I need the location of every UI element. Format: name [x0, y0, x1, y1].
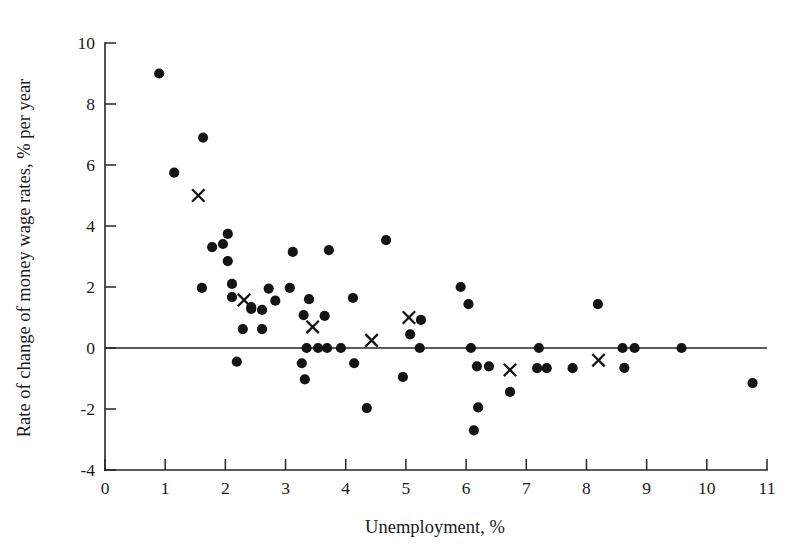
data-point-dot	[532, 363, 542, 373]
data-point-dot	[473, 402, 483, 412]
data-point-dot	[300, 374, 310, 384]
data-point-cross	[365, 334, 377, 346]
data-point-dot	[297, 358, 307, 368]
y-tick-label: -4	[80, 460, 95, 480]
tick-marks-group	[105, 43, 767, 470]
data-point-dot	[257, 305, 267, 315]
data-point-dot	[223, 256, 233, 266]
data-point-dot	[197, 283, 207, 293]
data-point-dot	[747, 378, 757, 388]
data-point-cross	[403, 311, 415, 323]
data-point-dot	[349, 358, 359, 368]
data-point-dot	[324, 245, 334, 255]
data-point-cross	[504, 364, 516, 376]
data-point-dot	[336, 343, 346, 353]
x-tick-label: 6	[462, 478, 471, 498]
data-point-dot	[313, 343, 323, 353]
tick-labels-group: -4-2024681001234567891011	[78, 33, 776, 498]
data-point-dot	[469, 425, 479, 435]
data-point-dot	[218, 239, 228, 249]
data-point-dot	[466, 343, 476, 353]
y-tick-label: 10	[78, 33, 96, 53]
data-point-dot	[415, 343, 425, 353]
data-point-dot	[227, 279, 237, 289]
data-point-dot	[534, 343, 544, 353]
data-point-dot	[257, 324, 267, 334]
x-tick-label: 4	[341, 478, 350, 498]
data-point-dot	[302, 343, 312, 353]
data-point-dot	[227, 292, 237, 302]
data-point-dot	[288, 247, 298, 257]
data-point-dot	[285, 283, 295, 293]
y-tick-label: 0	[86, 338, 95, 358]
x-tick-label: 10	[698, 478, 716, 498]
data-point-dot	[207, 242, 217, 252]
data-points-group	[154, 68, 758, 435]
data-point-dot	[542, 363, 552, 373]
x-tick-label: 11	[759, 478, 776, 498]
x-tick-label: 9	[642, 478, 651, 498]
data-point-dot	[593, 299, 603, 309]
data-point-dot	[169, 168, 179, 178]
y-tick-label: 2	[86, 277, 95, 297]
data-point-dot	[362, 403, 372, 413]
data-point-cross	[192, 189, 204, 201]
scatter-plot-figure: -4-2024681001234567891011 Unemployment, …	[0, 0, 804, 560]
data-point-dot	[676, 343, 686, 353]
data-point-dot	[484, 361, 494, 371]
x-tick-label: 2	[221, 478, 230, 498]
data-point-dot	[472, 361, 482, 371]
data-point-dot	[619, 363, 629, 373]
data-point-dot	[232, 357, 242, 367]
data-point-dot	[630, 343, 640, 353]
data-point-cross	[592, 354, 604, 366]
data-point-dot	[198, 132, 208, 142]
y-tick-label: 6	[86, 155, 95, 175]
x-tick-label: 5	[402, 478, 411, 498]
data-point-cross	[306, 321, 318, 333]
data-point-dot	[405, 329, 415, 339]
data-point-cross	[238, 294, 250, 306]
data-point-dot	[270, 296, 280, 306]
data-point-dot	[456, 282, 466, 292]
data-point-dot	[299, 310, 309, 320]
data-point-dot	[505, 387, 515, 397]
data-point-dot	[320, 311, 330, 321]
y-tick-label: 8	[86, 94, 95, 114]
data-point-dot	[348, 293, 358, 303]
data-point-dot	[416, 315, 426, 325]
x-tick-label: 3	[281, 478, 290, 498]
plot-canvas: -4-2024681001234567891011 Unemployment, …	[0, 0, 804, 560]
x-tick-label: 1	[161, 478, 170, 498]
data-point-dot	[238, 324, 248, 334]
data-point-dot	[264, 283, 274, 293]
x-tick-label: 8	[582, 478, 591, 498]
x-tick-label: 0	[101, 478, 110, 498]
data-point-dot	[223, 229, 233, 239]
data-point-dot	[154, 68, 164, 78]
data-point-dot	[304, 294, 314, 304]
x-tick-label: 7	[522, 478, 531, 498]
data-point-dot	[617, 343, 627, 353]
x-axis-title: Unemployment, %	[365, 517, 505, 537]
data-point-dot	[398, 372, 408, 382]
data-point-dot	[568, 363, 578, 373]
axis-group	[105, 43, 767, 470]
y-tick-label: -2	[80, 399, 95, 419]
y-tick-label: 4	[86, 216, 95, 236]
y-axis-title: Rate of change of money wage rates, % pe…	[14, 79, 34, 438]
data-point-dot	[322, 343, 332, 353]
data-point-dot	[463, 299, 473, 309]
data-point-dot	[381, 235, 391, 245]
